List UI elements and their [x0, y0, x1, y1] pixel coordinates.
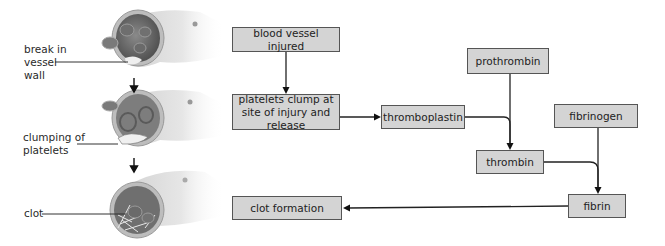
box-clot-formation: clot formation — [232, 196, 342, 220]
box-thromboplastin: thromboplastin — [381, 105, 465, 129]
box-fibrinogen: fibrinogen — [554, 104, 638, 128]
box-thrombin: thrombin — [476, 150, 544, 174]
box-platelets-clump: platelets clump at site of injury and re… — [232, 94, 340, 130]
box-blood-vessel-injured: blood vessel injured — [232, 27, 340, 52]
box-prothrombin: prothrombin — [467, 48, 549, 74]
box-fibrin: fibrin — [568, 194, 626, 218]
